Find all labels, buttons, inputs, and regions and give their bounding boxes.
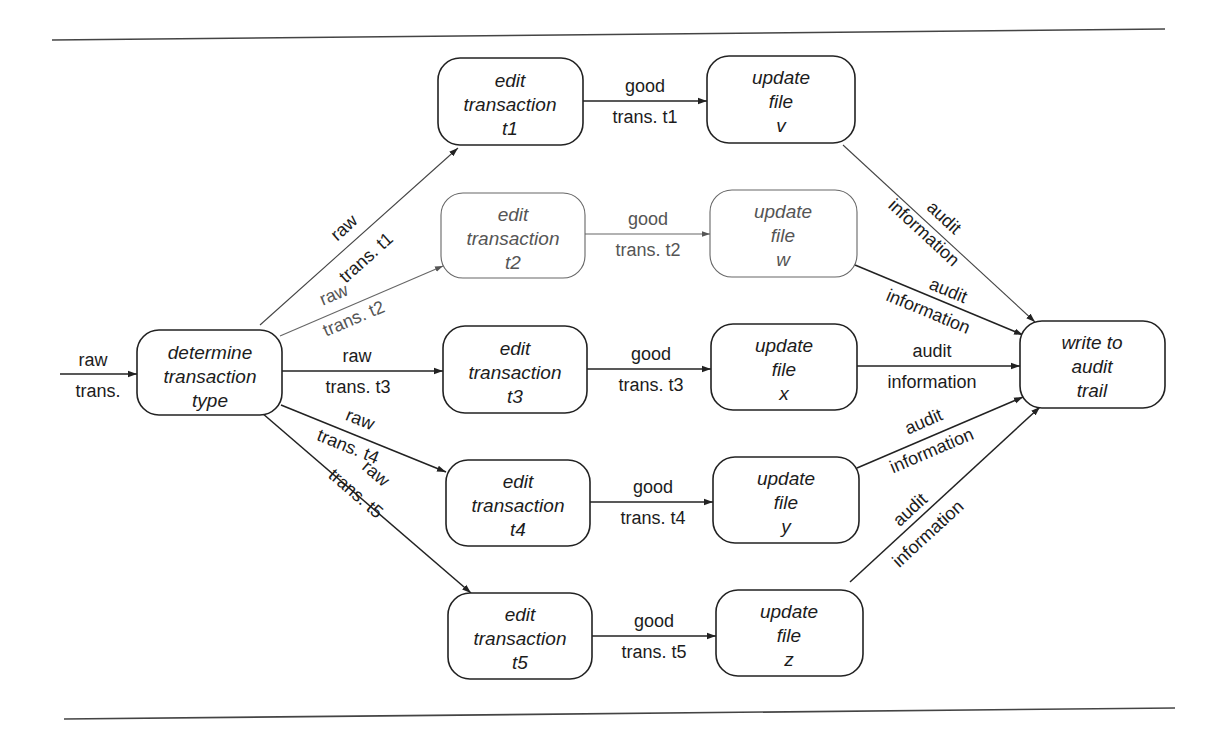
node-label-line: edit xyxy=(498,204,529,225)
edge-label-top: raw xyxy=(342,346,372,366)
edge-label-top: audit xyxy=(912,341,951,361)
node-label-line: type xyxy=(192,390,228,411)
node-label-line: file xyxy=(769,91,793,112)
node-label-line: update xyxy=(760,601,818,622)
edge-good-trans-t1: good trans. t1 xyxy=(583,76,707,127)
node-label-line: update xyxy=(752,67,810,88)
node-label-line: trail xyxy=(1077,380,1108,401)
transaction-flow-diagram: raw trans. raw trans. t1 raw trans. t2 r… xyxy=(0,0,1222,735)
node-label-line: y xyxy=(779,516,792,537)
node-label-line: update xyxy=(754,201,812,222)
edge-good-trans-t3: good trans. t3 xyxy=(587,344,711,395)
node-label-line: w xyxy=(776,249,791,270)
node-label-line: v xyxy=(776,115,787,136)
node-label-line: file xyxy=(772,359,796,380)
edge-audit-info-y: audit information xyxy=(857,397,1023,477)
node-label-line: edit xyxy=(503,471,534,492)
node-label-line: file xyxy=(771,225,795,246)
node-label-line: t1 xyxy=(502,118,518,139)
edge-audit-info-w: audit information xyxy=(855,265,1023,338)
edge-label-bottom: trans. t3 xyxy=(618,375,683,395)
edge-label-top: good xyxy=(634,611,674,631)
edge-raw-trans-t4: raw trans. t4 xyxy=(281,405,446,472)
edge-label-top: good xyxy=(628,209,668,229)
node-label-line: z xyxy=(783,649,794,670)
edge-label-bottom: trans. t2 xyxy=(615,240,680,260)
node-edit-transaction-t5: edit transaction t5 xyxy=(448,593,592,679)
node-label-line: edit xyxy=(500,338,531,359)
node-edit-transaction-t2: edit transaction t2 xyxy=(441,193,585,278)
edge-good-trans-t4: good trans. t4 xyxy=(590,477,713,528)
edge-raw-trans-t2: raw trans. t2 xyxy=(280,266,443,340)
node-label-line: t2 xyxy=(505,252,521,273)
node-label-line: update xyxy=(755,335,813,356)
edge-raw-trans-t3: raw trans. t3 xyxy=(282,346,443,397)
node-label-line: audit xyxy=(1071,356,1113,377)
bottom-rule xyxy=(64,708,1175,719)
edge-label-bottom: trans. t3 xyxy=(325,377,390,397)
edge-good-trans-t2: good trans. t2 xyxy=(585,209,710,260)
node-label-line: transaction xyxy=(469,362,562,383)
node-label-line: t4 xyxy=(510,519,526,540)
node-label-line: t5 xyxy=(512,652,528,673)
node-edit-transaction-t1: edit transaction t1 xyxy=(438,58,583,145)
edge-label-bottom: trans. t1 xyxy=(612,107,677,127)
edge-label-top: raw xyxy=(78,350,108,370)
edge-audit-info-x: audit information xyxy=(857,341,1020,392)
node-label-line: transaction xyxy=(164,366,257,387)
node-label-line: transaction xyxy=(467,228,560,249)
node-label-line: edit xyxy=(505,604,536,625)
node-label-line: x xyxy=(778,383,790,404)
node-update-file-z: update file z xyxy=(716,590,863,676)
node-label-line: transaction xyxy=(464,94,557,115)
node-edit-transaction-t4: edit transaction t4 xyxy=(446,460,590,546)
node-label-line: write to xyxy=(1061,332,1122,353)
edge-raw-trans-t1: raw trans. t1 xyxy=(260,148,458,325)
edge-label-top: raw xyxy=(327,210,363,245)
node-label-line: file xyxy=(774,492,798,513)
node-label-line: transaction xyxy=(474,628,567,649)
edge-label-top: good xyxy=(631,344,671,364)
edge-label-bottom: information xyxy=(887,372,976,392)
node-update-file-y: update file y xyxy=(713,457,859,543)
edge-label-bottom: trans. t5 xyxy=(621,642,686,662)
edge-label-top: good xyxy=(633,477,673,497)
node-update-file-w: update file w xyxy=(710,190,857,277)
node-label-line: determine xyxy=(168,342,253,363)
node-edit-transaction-t3: edit transaction t3 xyxy=(443,326,587,413)
top-rule xyxy=(52,29,1165,40)
node-update-file-x: update file x xyxy=(711,324,857,410)
node-update-file-v: update file v xyxy=(707,56,855,143)
node-label-line: file xyxy=(777,625,801,646)
edge-label-bottom: trans. xyxy=(75,381,120,401)
edge-label-bottom: information xyxy=(887,424,977,477)
edge-label-top: good xyxy=(625,76,665,96)
edge-label-top: raw xyxy=(343,405,378,435)
node-determine-transaction-type: determine transaction type xyxy=(137,330,282,415)
edge-good-trans-t5: good trans. t5 xyxy=(592,611,716,662)
node-label-line: t3 xyxy=(507,386,523,407)
node-label-line: edit xyxy=(495,70,526,91)
node-label-line: update xyxy=(757,468,815,489)
edge-label-bottom: trans. t4 xyxy=(620,508,685,528)
node-label-line: transaction xyxy=(472,495,565,516)
edge-input-raw-trans: raw trans. xyxy=(60,350,137,401)
node-write-to-audit-trail: write to audit trail xyxy=(1020,321,1165,408)
